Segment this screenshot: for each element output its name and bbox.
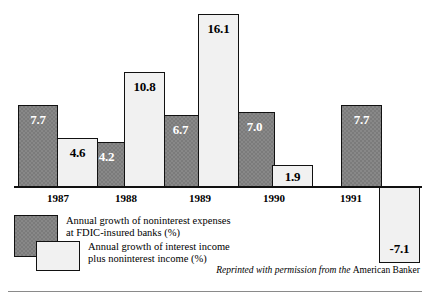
- x-axis-label-1987: 1987: [28, 192, 88, 204]
- bar-1990-expenses: 7.0: [234, 112, 275, 188]
- legend-label-interest-income: Annual growth of interest income plus no…: [88, 241, 230, 265]
- bar-1989-income: 16.1: [198, 14, 239, 188]
- credit-publication-name: American Banker: [353, 265, 420, 275]
- bar-value-label: 6.7: [173, 123, 189, 136]
- bar-value-label: 7.7: [354, 113, 370, 126]
- bar-value-label: 10.8: [134, 80, 156, 93]
- bar-value-label: 7.7: [30, 113, 46, 126]
- legend-swatch-interest-income: [36, 241, 80, 271]
- source-credit: Reprinted with permission from the Ameri…: [216, 265, 420, 275]
- bar-1990-income: 1.9: [272, 165, 313, 188]
- legend-label-noninterest-expenses: Annual growth of noninterest expenses at…: [66, 215, 230, 239]
- bar-value-label: 4.6: [70, 146, 86, 159]
- bar-1988-income: 10.8: [124, 72, 165, 188]
- bar-value-label: 1.9: [285, 170, 301, 183]
- bar-1987-expenses: 7.7: [18, 105, 58, 188]
- x-axis-label-1988: 1988: [96, 192, 156, 204]
- x-axis-label-1989: 1989: [170, 192, 230, 204]
- bottom-divider: [8, 291, 422, 292]
- bar-1991-income: -7.1: [379, 187, 420, 263]
- bar-value-label: -7.1: [390, 242, 410, 255]
- chart-figure: 7.7 4.6 4.2 10.8 6.7 16.1 7.0 1.9 7.7: [0, 0, 430, 299]
- credit-italic-text: Reprinted with permission from the: [216, 265, 353, 275]
- bar-value-label: 7.0: [247, 120, 263, 133]
- x-axis-label-1990: 1990: [244, 192, 304, 204]
- bar-1987-income: 4.6: [57, 138, 98, 188]
- x-axis-label-1991: 1991: [321, 192, 381, 204]
- bar-value-label: 16.1: [208, 22, 230, 35]
- bar-1989-expenses: 6.7: [160, 115, 201, 188]
- bar-1991-expenses: 7.7: [341, 105, 382, 188]
- x-axis-line: [14, 186, 422, 188]
- bar-value-label: 4.2: [99, 150, 115, 163]
